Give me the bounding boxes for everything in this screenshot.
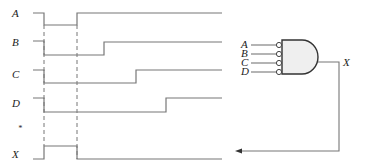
waveform-x [33, 146, 222, 159]
timing-diagram: A B C D * X A B C D X [0, 0, 367, 167]
waveform-label-c: C [12, 68, 20, 80]
waveform-label-b: B [12, 36, 19, 48]
waveform-a [33, 13, 222, 25]
waveform-b [33, 41, 222, 55]
inverter-bubble-b [276, 51, 281, 56]
waveform-d [33, 98, 222, 112]
waveform-label-star: * [18, 124, 22, 133]
and-gate-icon [282, 40, 318, 74]
waveform-c [33, 70, 222, 83]
waveform-label-a: A [11, 7, 19, 19]
gate-input-label-d: D [240, 65, 249, 77]
inverter-bubble-c [276, 60, 281, 65]
gate-output-wire [240, 62, 339, 151]
inverter-bubble-a [276, 42, 281, 47]
waveform-label-d: D [11, 97, 20, 109]
arrow-head-icon [235, 149, 242, 154]
waveform-label-x: X [11, 148, 20, 160]
inverter-bubble-d [276, 69, 281, 74]
gate-output-label: X [342, 56, 351, 68]
